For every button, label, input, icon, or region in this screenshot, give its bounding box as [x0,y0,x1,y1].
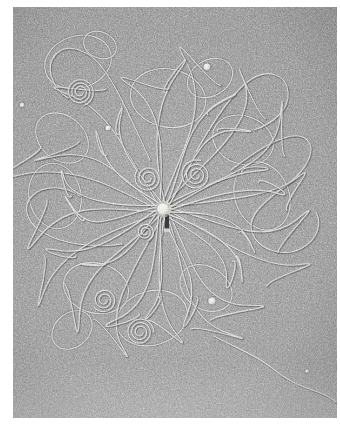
micrograph-plate [13,7,337,418]
electron-micrograph-figure [0,0,340,426]
micrograph-canvas [13,7,337,418]
bottom-fade [13,7,337,418]
